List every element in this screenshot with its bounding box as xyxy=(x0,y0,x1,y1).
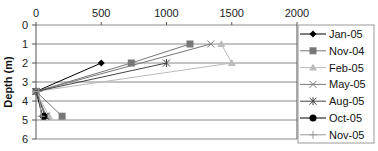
y-tick-label: 4 xyxy=(22,95,28,107)
legend-label: Feb-05 xyxy=(329,62,364,74)
y-tick-label: 0 xyxy=(22,19,28,31)
x-tick-label: 0 xyxy=(33,7,39,19)
y-tick-label: 3 xyxy=(22,76,28,88)
x-tick-label: 1000 xyxy=(154,7,178,19)
legend-label: Nov-04 xyxy=(329,45,364,57)
legend-label: Nov-05 xyxy=(329,129,364,141)
y-tick-label: 1 xyxy=(22,38,28,50)
y-tick-label: 6 xyxy=(22,133,28,145)
y-tick-label: 5 xyxy=(22,114,28,126)
series-may-05 xyxy=(33,41,215,120)
legend-label: Aug-05 xyxy=(329,95,364,107)
legend: Jan-05Nov-04Feb-05May-05Aug-05Oct-05Nov-… xyxy=(298,25,374,143)
legend-label: Jan-05 xyxy=(329,28,363,40)
x-tick-label: 500 xyxy=(92,7,110,19)
x-tick-label: 1500 xyxy=(220,7,244,19)
depth-profile-chart: 01234560500100015002000Depth (m)Jan-05No… xyxy=(0,0,378,151)
y-axis-title: Depth (m) xyxy=(2,56,14,108)
x-tick-label: 2000 xyxy=(285,7,309,19)
series-aug-05 xyxy=(33,59,171,120)
legend-label: May-05 xyxy=(329,78,366,90)
legend-label: Oct-05 xyxy=(329,112,362,124)
y-tick-label: 2 xyxy=(22,57,28,69)
